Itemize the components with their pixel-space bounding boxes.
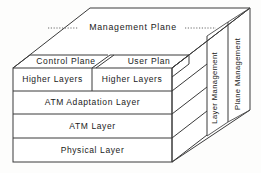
user-plane-label: User Plan bbox=[112, 57, 186, 66]
atm-adaptation-layer-label: ATM Adaptation Layer bbox=[13, 98, 172, 107]
control-plane-label: Control Plane bbox=[24, 57, 108, 66]
layer-management-label: Layer Management bbox=[211, 38, 219, 138]
plane-management-label: Plane Management bbox=[234, 24, 242, 124]
higher-layers-user-label: Higher Layers bbox=[92, 75, 172, 84]
atm-layer-label: ATM Layer bbox=[13, 122, 172, 131]
physical-layer-label: Physical Layer bbox=[13, 146, 172, 155]
atm-protocol-reference-model-diagram: .ln{stroke:#3a3a3a;stroke-width:1;fill:n… bbox=[0, 0, 261, 173]
management-plane-label: Management Plane bbox=[82, 23, 184, 32]
higher-layers-control-label: Higher Layers bbox=[13, 75, 92, 84]
